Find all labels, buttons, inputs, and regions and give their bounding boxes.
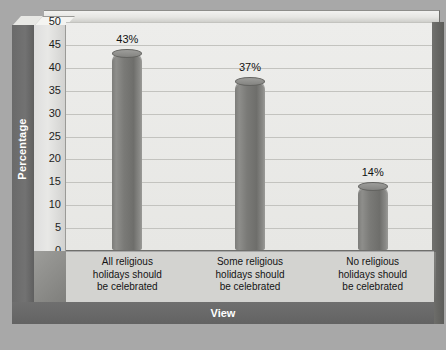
x-category-label-line: All religious bbox=[69, 256, 185, 269]
x-category-label-line: holidays should bbox=[192, 269, 308, 282]
y-tick-label: 20 bbox=[35, 153, 61, 164]
y-axis-tick-labels: 50454035302520151050 bbox=[34, 25, 66, 251]
bar bbox=[112, 53, 142, 250]
y-tick-label: 5 bbox=[35, 222, 61, 233]
gridline bbox=[66, 22, 432, 23]
bar-value-label: 14% bbox=[341, 166, 405, 178]
y-tick-label: 25 bbox=[35, 131, 61, 142]
bar-value-label: 43% bbox=[95, 33, 159, 45]
bar-top-cap bbox=[235, 77, 265, 86]
x-category-label-line: holidays should bbox=[69, 269, 185, 282]
y-tick-label: 15 bbox=[35, 176, 61, 187]
y-tick-label: 10 bbox=[35, 199, 61, 210]
x-axis-category-labels: All religiousholidays shouldbe celebrate… bbox=[66, 252, 434, 302]
x-category-label-line: holidays should bbox=[315, 269, 431, 282]
chart-figure: Percentage 50454035302520151050 43%37%14… bbox=[0, 0, 446, 350]
x-axis-title: View bbox=[12, 302, 434, 324]
x-category-label: No religiousholidays shouldbe celebrated bbox=[315, 256, 431, 294]
y-tick-label: 40 bbox=[35, 62, 61, 73]
x-category-label-line: No religious bbox=[315, 256, 431, 269]
x-category-label: Some religiousholidays shouldbe celebrat… bbox=[192, 256, 308, 294]
bar bbox=[358, 186, 388, 250]
y-tick-label: 45 bbox=[35, 39, 61, 50]
y-axis-title-wall: Percentage bbox=[12, 25, 34, 302]
plot-floor-wedge bbox=[34, 251, 66, 302]
bar bbox=[235, 81, 265, 250]
bar-top-cap bbox=[358, 182, 388, 191]
x-category-label-line: be celebrated bbox=[69, 281, 185, 294]
x-axis-title-wall: View bbox=[12, 302, 434, 324]
x-category-label-line: be celebrated bbox=[315, 281, 431, 294]
x-category-label-line: be celebrated bbox=[192, 281, 308, 294]
plot-area: 43%37%14% bbox=[66, 22, 434, 251]
x-category-label: All religiousholidays shouldbe celebrate… bbox=[69, 256, 185, 294]
bar-value-label: 37% bbox=[218, 61, 282, 73]
y-tick-label: 35 bbox=[35, 85, 61, 96]
y-tick-label: 50 bbox=[35, 16, 61, 27]
bar-top-cap bbox=[112, 49, 142, 58]
x-category-label-line: Some religious bbox=[192, 256, 308, 269]
y-tick-label: 30 bbox=[35, 108, 61, 119]
y-axis-title: Percentage bbox=[16, 24, 28, 274]
